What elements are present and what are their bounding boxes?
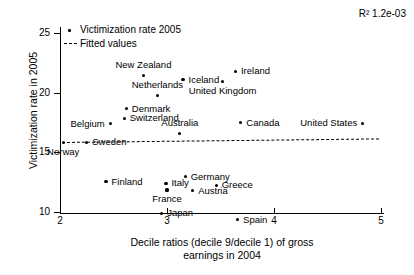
data-point-label: Canada <box>246 118 279 128</box>
data-point <box>178 132 181 135</box>
data-point-label: Australia <box>161 118 198 128</box>
x-axis-title-line1: Decile ratios (decile 9/decile 1) of gro… <box>130 236 313 248</box>
data-point-label: Netherlands <box>132 80 183 90</box>
x-axis-title-line2: earnings in 2004 <box>183 249 261 261</box>
data-point-label: Greece <box>222 180 253 190</box>
data-point <box>123 117 126 120</box>
data-point <box>125 107 128 110</box>
data-point <box>109 122 112 125</box>
y-axis-line <box>60 27 61 214</box>
x-tick-mark <box>60 208 61 213</box>
data-point <box>221 80 224 83</box>
y-axis-title: Victimization rate in 2005 <box>28 21 39 201</box>
data-point <box>361 122 364 125</box>
data-point-label: Belgium <box>70 119 104 129</box>
legend-label-fitted-values: Fitted values <box>80 38 137 49</box>
dashed-line-icon <box>64 43 77 44</box>
data-point <box>156 94 159 97</box>
data-point-label: Japan <box>167 208 193 218</box>
data-point <box>142 74 145 77</box>
data-point-label: Spain <box>243 215 267 225</box>
legend-dot-icon <box>68 29 71 32</box>
legend-label-victimization-rate: Victimization rate 2005 <box>80 24 181 35</box>
y-tick-label: 10 <box>26 207 50 217</box>
data-point <box>62 141 65 144</box>
chart-legend: Victimization rate 2005 Fitted values <box>64 23 181 51</box>
x-tick-label: 2 <box>50 216 70 226</box>
data-point <box>234 70 237 73</box>
data-point <box>85 141 88 144</box>
data-point-label: France <box>152 194 182 204</box>
data-point <box>160 212 163 215</box>
data-point <box>164 182 167 185</box>
scatter-plot-figure: 10152025 2345 Victimization rate in 2005… <box>0 0 414 275</box>
data-point <box>104 180 107 183</box>
data-point-label: Norway <box>47 147 79 157</box>
data-point-label: United States <box>300 118 357 128</box>
data-point <box>165 188 168 191</box>
x-axis-title: Decile ratios (decile 9/decile 1) of gro… <box>60 236 384 262</box>
data-point <box>181 78 184 81</box>
x-axis-line <box>60 213 384 214</box>
data-point <box>215 184 218 187</box>
data-point-label: United Kingdom <box>189 86 257 96</box>
data-point-label: Sweden <box>92 137 126 147</box>
legend-item-victimization-rate: Victimization rate 2005 <box>64 23 181 37</box>
data-point-label: Italy <box>171 178 188 188</box>
data-point <box>191 189 194 192</box>
r-squared-annotation: R² 1.2e-03 <box>359 9 406 19</box>
data-point <box>236 218 239 221</box>
x-tick-label: 5 <box>371 216 391 226</box>
data-point-label: Denmark <box>132 104 171 114</box>
legend-item-fitted-values: Fitted values <box>64 37 181 51</box>
data-point-label: Ireland <box>241 66 270 76</box>
x-tick-mark <box>274 208 275 213</box>
x-tick-mark <box>381 208 382 213</box>
data-point-label: Finland <box>112 177 143 187</box>
data-point-label: New Zealand <box>115 60 171 70</box>
y-tick-mark <box>54 33 60 34</box>
y-tick-mark <box>54 93 60 94</box>
data-point-label: Iceland <box>189 75 220 85</box>
data-point <box>239 121 242 124</box>
